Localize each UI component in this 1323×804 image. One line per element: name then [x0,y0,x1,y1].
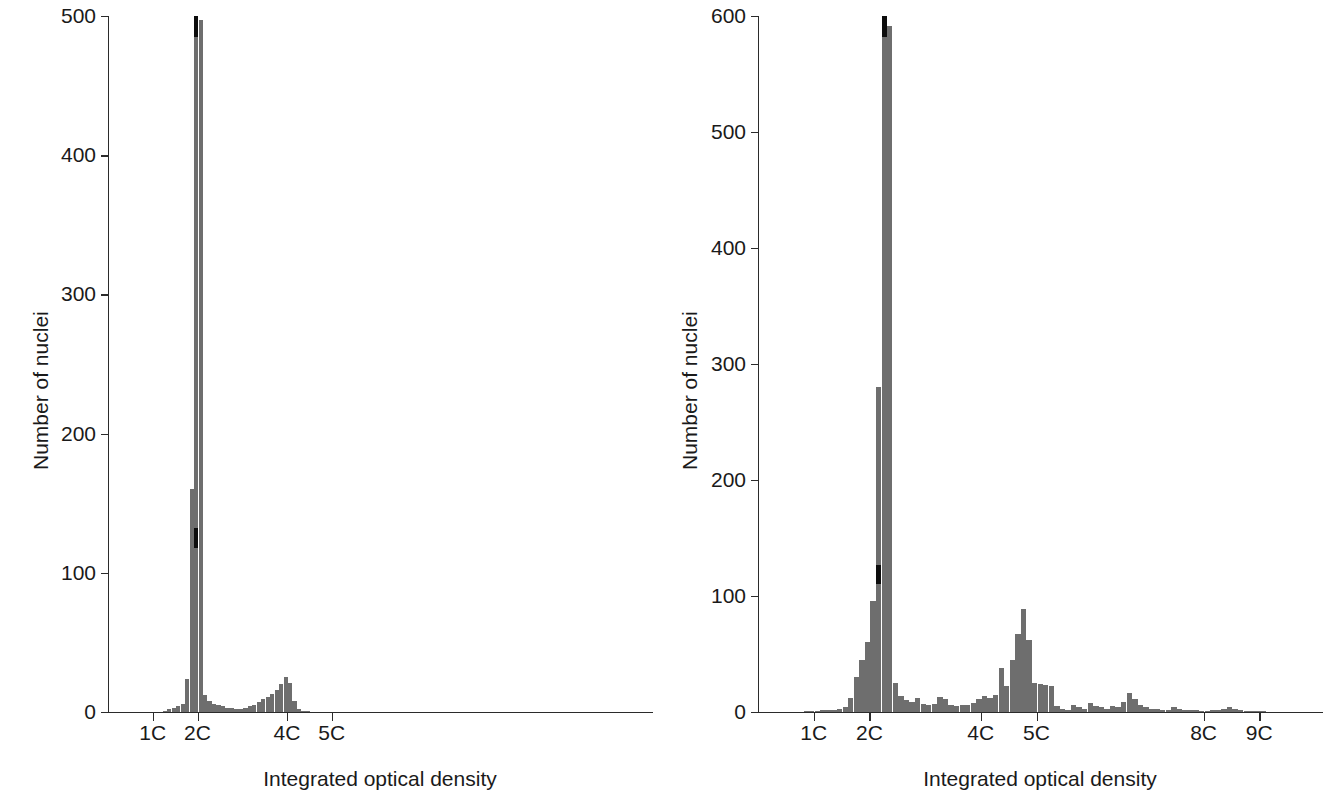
histogram-bar [999,668,1004,712]
x-axis-tick-label: 5C [302,722,362,743]
chart-panel-left: 01002003004005001C2C4C5CIntegrated optic… [0,0,660,804]
x-axis-tick [153,713,154,721]
histogram-bar [1138,705,1143,712]
histogram-bar [987,698,992,712]
histogram-bars [645,0,1319,712]
histogram-bar [1232,709,1237,712]
histogram-bar [820,710,825,712]
x-axis-tick [814,713,815,721]
x-axis-tick-label: 8C [1174,722,1234,743]
histogram-bar [826,710,831,712]
histogram-bar [1127,693,1132,712]
x-axis-tick-label: 4C [951,722,1011,743]
clipped-peak-cap [882,16,887,37]
histogram-bar [1093,706,1098,712]
x-axis-tick [1259,713,1260,721]
histogram-bar [859,660,864,712]
histogram-bar [1099,707,1104,712]
histogram-bar [1021,609,1026,712]
histogram-bar [1177,709,1182,712]
histogram-bar [976,699,981,712]
histogram-bar [1182,710,1187,712]
histogram-bar [1026,640,1031,712]
histogram-bar [876,387,881,712]
histogram-bar [982,696,987,712]
histogram-bar [993,695,998,712]
histogram-bar [1076,707,1081,712]
histogram-bar [1015,634,1020,712]
x-axis-tick [332,713,333,721]
histogram-bar [199,20,203,712]
x-axis-tick [869,713,870,721]
peak-marker-segment [194,528,198,547]
histogram-bar [1104,709,1109,712]
histogram-bar [1054,706,1059,712]
chart-panel-right: 01002003004005006001C2C4C5C8C9CIntegrate… [645,0,1319,804]
x-axis-tick [1037,713,1038,721]
histogram-bar [1032,683,1037,712]
y-axis-tick [101,712,108,713]
histogram-bar [1088,703,1093,712]
y-axis-tick [751,712,758,713]
histogram-bar [837,709,842,712]
histogram-bar [971,703,976,712]
x-axis-tick [981,713,982,721]
histogram-bar [1205,711,1210,712]
histogram-bar [870,601,875,712]
histogram-bar [804,711,809,712]
histogram-bar [1238,710,1243,712]
x-axis-tick-label: 9C [1229,722,1289,743]
histogram-bar [843,707,848,712]
histogram-bar [898,696,903,712]
peak-marker-segment [876,565,881,585]
histogram-bar [1082,709,1087,712]
histogram-bar [1004,686,1009,712]
histogram-bar [306,711,310,712]
x-axis-tick-label: 2C [839,722,899,743]
x-axis-tick-label: 1C [784,722,844,743]
x-axis-title: Integrated optical density [200,768,560,789]
x-axis-line [758,712,1323,713]
histogram-bar [831,710,836,712]
histogram-bar [954,706,959,712]
histogram-bar [1199,711,1204,712]
histogram-bar [1160,710,1165,712]
histogram-bar [1065,710,1070,712]
histogram-bar [809,711,814,712]
x-axis-tick [287,713,288,721]
clipped-peak-cap [194,16,198,37]
histogram-bar [1149,709,1154,712]
histogram-bar [887,26,892,712]
x-axis-tick [1204,713,1205,721]
x-axis-line [108,712,653,713]
histogram-bar [932,704,937,712]
histogram-bar [1071,705,1076,712]
histogram-bar [1244,711,1249,712]
histogram-bar [1121,702,1126,712]
histogram-bar [1171,707,1176,712]
histogram-bar [1216,710,1221,712]
histogram-bar [1260,711,1265,712]
histogram-bar [1166,710,1171,712]
histogram-bar [909,702,914,712]
histogram-bar [1210,710,1215,712]
histogram-bar [1143,707,1148,712]
histogram-bar [1132,699,1137,712]
histogram-bar [854,677,859,712]
histogram-bar [943,699,948,712]
histogram-bar [965,705,970,712]
histogram-bar [848,698,853,712]
histogram-bar [1255,711,1260,712]
histogram-bar [948,705,953,712]
histogram-bar [1049,686,1054,712]
histogram-bar [882,16,887,712]
x-axis-tick-label: 5C [1007,722,1067,743]
histogram-bar [937,697,942,712]
x-axis-title: Integrated optical density [860,768,1220,789]
histogram-bar [926,705,931,712]
histogram-bar [1043,685,1048,712]
histogram-bar [921,704,926,712]
histogram-bar [1221,709,1226,712]
x-axis-tick [198,713,199,721]
